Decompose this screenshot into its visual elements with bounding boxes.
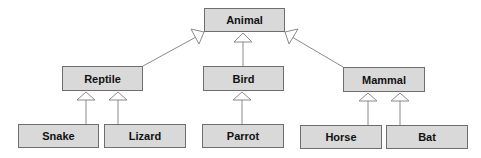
class-label: Bat: [418, 131, 436, 143]
generalization-arrow-icon: [359, 93, 377, 101]
class-label: Horse: [325, 131, 356, 143]
class-box-mammal: Mammal: [343, 67, 425, 92]
class-label: Snake: [42, 130, 74, 142]
class-label: Lizard: [129, 130, 161, 142]
class-box-bird: Bird: [203, 66, 284, 91]
class-label: Animal: [226, 14, 263, 26]
generalization-arrow-icon: [77, 92, 95, 100]
class-label: Mammal: [362, 74, 406, 86]
class-box-lizard: Lizard: [104, 124, 186, 148]
generalization-arrow-icon: [234, 33, 252, 42]
generalization-arrow-icon: [285, 29, 298, 44]
class-box-reptile: Reptile: [62, 66, 143, 91]
class-box-animal: Animal: [204, 8, 285, 32]
class-label: Reptile: [84, 73, 121, 85]
generalization-arrow-icon: [391, 93, 409, 101]
class-box-horse: Horse: [300, 125, 382, 149]
class-box-bat: Bat: [386, 125, 468, 149]
generalization-arrow-icon: [233, 92, 251, 100]
class-label: Bird: [233, 73, 255, 85]
class-box-snake: Snake: [18, 124, 99, 148]
generalization-arrow-icon: [109, 92, 127, 100]
class-label: Parrot: [227, 130, 259, 142]
class-box-parrot: Parrot: [202, 124, 284, 148]
generalization-arrow-icon: [191, 29, 204, 44]
